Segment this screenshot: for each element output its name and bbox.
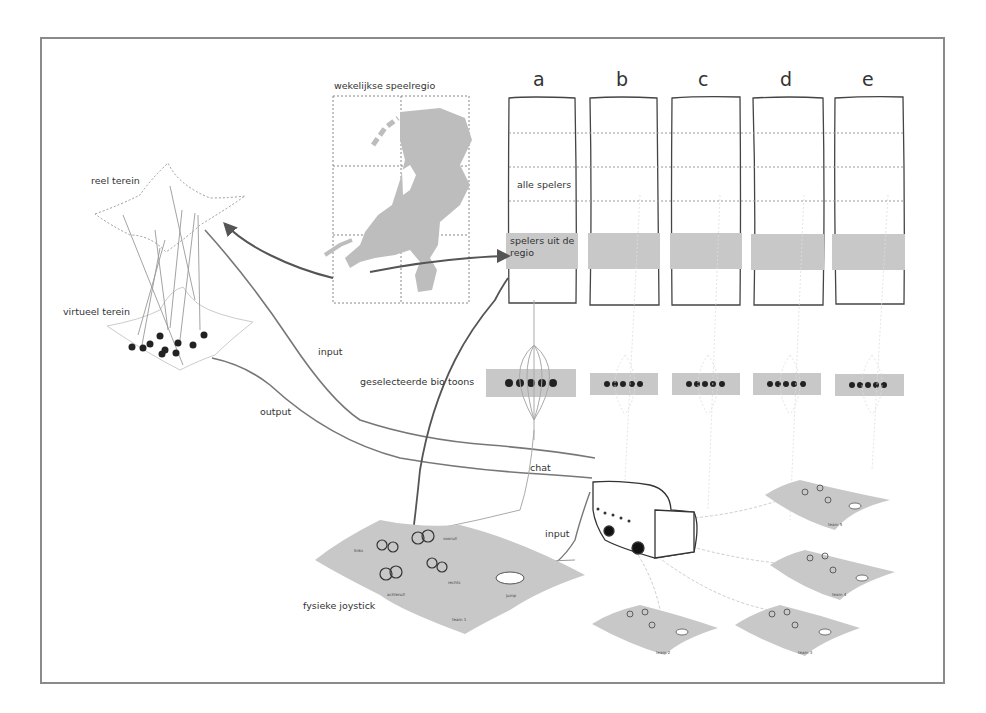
input-bottom-label: input [545, 528, 569, 539]
selected-biotoons-label: geselecteerde bio toons [360, 376, 474, 387]
team-4-label: team 4 [832, 592, 846, 597]
column-label-c: c [698, 68, 708, 90]
column-label-a: a [533, 68, 545, 90]
player-columns [506, 97, 905, 305]
players-region-label: spelers uit de regio [510, 235, 576, 259]
physical-joystick-label: fysieke joystick [303, 600, 375, 611]
virtual-terrain-label: virtueel terein [63, 306, 130, 317]
region-map [325, 96, 472, 303]
team-1-label: team 1 [452, 617, 466, 622]
control-forward-label: vooruit [443, 536, 457, 541]
weekly-region-label: wekelijkse speelregio [334, 80, 435, 91]
column-label-b: b [616, 68, 628, 90]
jump-label: jump [506, 593, 516, 598]
control-left-label: links [354, 548, 363, 553]
real-terrain-label: reel terein [91, 175, 140, 186]
team-5-label: team 5 [828, 522, 842, 527]
column-label-e: e [862, 68, 874, 90]
control-back-label: achteruit [387, 592, 405, 597]
chat-label: chat [530, 462, 551, 473]
control-right-label: rechts [448, 580, 460, 585]
diagram-canvas [0, 0, 986, 713]
terrains [95, 163, 253, 370]
car-icon [593, 481, 697, 558]
team-2-label: team 2 [656, 650, 670, 655]
column-label-d: d [780, 68, 792, 90]
input-top-label: input [318, 346, 342, 357]
output-label: output [260, 406, 291, 417]
all-players-label: alle spelers [517, 179, 571, 190]
team-3-label: team 3 [798, 650, 812, 655]
